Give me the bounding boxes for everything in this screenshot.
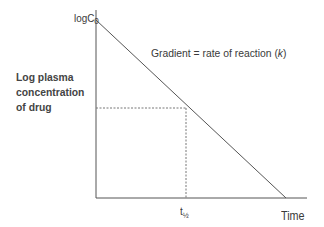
gradient-text: Gradient = rate of reaction ( — [151, 47, 278, 59]
half-life-label: t½ — [180, 204, 189, 220]
gradient-annotation: Gradient = rate of reaction (k) — [151, 46, 286, 60]
y-intercept-label: logC0 — [74, 11, 99, 26]
y-label-line-3: of drug — [16, 100, 97, 115]
t-subscript: ½ — [183, 211, 189, 220]
logc-text: logC — [74, 12, 94, 24]
time-text: Time — [281, 209, 305, 223]
logc-subscript: 0 — [94, 16, 99, 26]
y-label-line-1: Log plasma — [16, 70, 97, 85]
y-label-line-2: concentration — [16, 85, 97, 100]
y-axis-label: Log plasma concentration of drug — [16, 70, 97, 115]
x-axis-label: Time — [281, 209, 305, 223]
gradient-paren: ) — [283, 47, 286, 59]
